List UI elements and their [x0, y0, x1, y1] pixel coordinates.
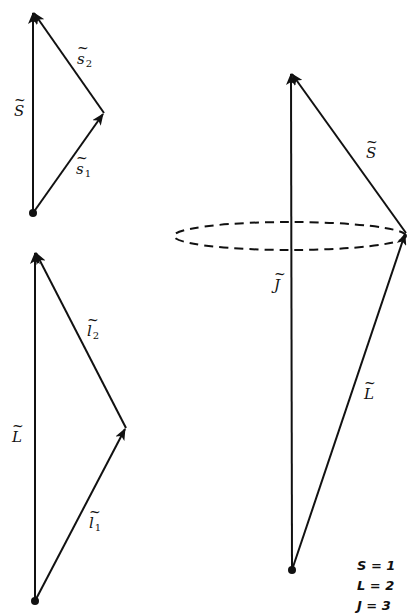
label-s2: ~s2 [77, 52, 92, 69]
origin-dot [31, 597, 39, 605]
vector-S [292, 74, 406, 233]
vector-L [292, 234, 405, 570]
vector-s2 [34, 13, 104, 113]
label-S-total: ~S [14, 104, 24, 119]
legend-S: S = 1 [357, 556, 395, 576]
origin-dot [29, 209, 37, 217]
vector-J [291, 74, 292, 570]
orbital-coupling-panel [31, 253, 126, 605]
quantum-number-legend: S = 1 L = 2 J = 3 [357, 556, 395, 616]
label-l1: ~l1 [89, 516, 101, 533]
vector-s1 [33, 114, 103, 213]
spin-coupling-panel [29, 13, 104, 217]
precession-ellipse [174, 222, 406, 250]
legend-L: L = 2 [357, 576, 395, 596]
label-S-right: ~S [366, 146, 376, 161]
label-J-right: ~J [274, 278, 280, 293]
label-L-total: ~L [12, 430, 22, 445]
label-s1: ~s1 [76, 162, 91, 179]
vector-l2 [36, 253, 126, 428]
label-L-right: ~L [364, 387, 374, 402]
vector-l1 [35, 429, 125, 601]
label-l2: ~l2 [87, 324, 99, 341]
origin-dot [288, 566, 296, 574]
legend-J: J = 3 [357, 596, 395, 616]
